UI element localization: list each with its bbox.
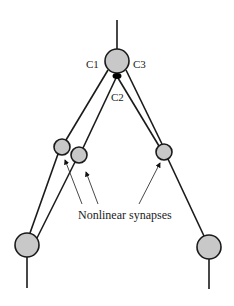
top-neuron: [105, 49, 129, 73]
mid-right-neuron: [156, 144, 172, 160]
label-c3: C3: [133, 58, 146, 70]
c2-right-line: [118, 78, 159, 146]
right-lower-line: [168, 159, 204, 236]
c2-upper-line: [83, 78, 116, 148]
caption-nonlinear-synapses: Nonlinear synapses: [78, 208, 172, 222]
diagram-canvas: C1 C3 C2 Nonlinear synapses: [0, 0, 234, 306]
circuit-diagram: C1 C3 C2 Nonlinear synapses: [0, 0, 234, 306]
c3-line: [126, 70, 162, 144]
mid-left-neuron-1: [54, 139, 70, 155]
label-c1: C1: [86, 58, 99, 70]
synapse-icon: [113, 73, 122, 79]
label-c2: C2: [111, 91, 124, 103]
c2-lower-line: [37, 162, 75, 238]
c1-upper-line: [66, 70, 108, 140]
arrow-to-mid-left-2: [86, 172, 98, 204]
bottom-right-neuron: [197, 235, 221, 259]
arrow-to-mid-right: [139, 163, 160, 204]
mid-left-neuron-2: [71, 147, 87, 163]
bottom-left-neuron: [15, 233, 39, 257]
c1-lower-line: [30, 154, 58, 233]
